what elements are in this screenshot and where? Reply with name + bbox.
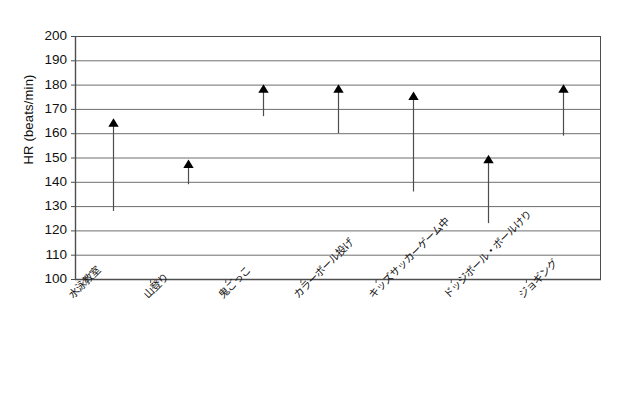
chart-container: HR (beats/min) 2001901801701601501401301…: [0, 0, 622, 402]
plot-area: [0, 0, 622, 402]
